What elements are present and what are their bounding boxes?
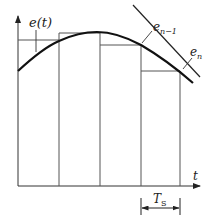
time-axis-label: t <box>193 169 198 183</box>
tangent-line <box>133 5 200 77</box>
svg-text:S: S <box>161 199 166 208</box>
sampling-period-label: T S <box>153 192 166 208</box>
svg-text:n−1: n−1 <box>160 27 177 36</box>
e-curr-label: e n <box>190 45 202 61</box>
signal-label: e(t) <box>29 15 52 30</box>
svg-text:n: n <box>197 52 202 61</box>
e-prev-leader <box>142 31 152 43</box>
sampling-diagram: e(t) e n−1 e n t T S <box>0 0 209 221</box>
sample-lines <box>59 33 180 186</box>
e-prev-label: e n−1 <box>153 20 177 36</box>
